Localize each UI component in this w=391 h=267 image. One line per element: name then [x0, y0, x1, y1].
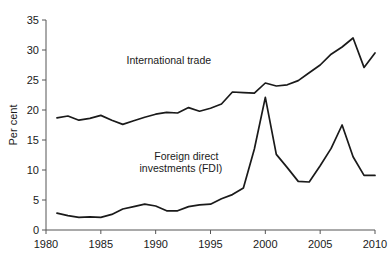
series-annotations-group: International tradeForeign directinvestm… — [126, 54, 222, 173]
y-tick-label: 20 — [27, 104, 39, 116]
axes-group — [46, 20, 375, 230]
x-tick-label: 2005 — [308, 238, 332, 250]
y-axis-ticks: 05101520253035 — [27, 14, 46, 236]
x-axis-ticks: 1980198519901995200020052010 — [34, 230, 387, 250]
x-tick-label: 1985 — [89, 238, 113, 250]
x-tick-label: 2010 — [363, 238, 387, 250]
x-tick-label: 1990 — [143, 238, 167, 250]
y-tick-label: 5 — [33, 194, 39, 206]
y-tick-label: 30 — [27, 44, 39, 56]
chart-container: 05101520253035 1980198519901995200020052… — [0, 0, 391, 267]
x-tick-label: 2000 — [253, 238, 277, 250]
y-tick-label: 10 — [27, 164, 39, 176]
y-tick-label: 15 — [27, 134, 39, 146]
y-axis-title: Per cent — [7, 105, 19, 146]
series-annotation-label: International trade — [126, 54, 211, 66]
x-tick-label: 1995 — [198, 238, 222, 250]
series-line-international-trade — [57, 38, 375, 124]
y-tick-label: 25 — [27, 74, 39, 86]
x-tick-label: 1980 — [34, 238, 58, 250]
series-annotation-label: investments (FDI) — [139, 162, 222, 174]
line-chart: 05101520253035 1980198519901995200020052… — [0, 0, 391, 267]
data-series-group — [57, 38, 375, 217]
series-annotation-label: Foreign direct — [154, 150, 218, 162]
y-tick-label: 35 — [27, 14, 39, 26]
y-tick-label: 0 — [33, 224, 39, 236]
